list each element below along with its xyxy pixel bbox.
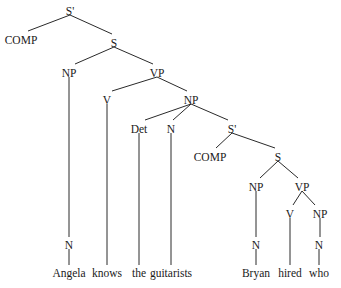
tree-branch: [260, 161, 278, 178]
tree-branch: [75, 47, 114, 64]
tree-branch: [145, 104, 191, 120]
tree-branch: [114, 47, 153, 64]
word-w2: knows: [92, 267, 123, 279]
node-label-np1: NP: [62, 67, 77, 79]
word-w7: who: [309, 267, 329, 279]
node-label-np4: NP: [313, 208, 328, 220]
tree-branch: [302, 191, 315, 205]
syntax-tree-diagram: S'COMPSNPVPVNPDetNS'COMPSNPVPVNPNNN Ange…: [0, 0, 341, 288]
node-label-sbar2: S': [228, 123, 236, 135]
node-label-n3: N: [252, 239, 261, 251]
node-label-vp1: VP: [150, 67, 165, 79]
word-w5: Bryan: [242, 267, 270, 280]
node-label-np3: NP: [249, 181, 264, 193]
node-label-comp1: COMP: [5, 34, 38, 46]
tree-branch: [232, 133, 275, 148]
tree-branch: [191, 104, 228, 120]
node-label-np2: NP: [184, 94, 199, 106]
word-w4: guitarists: [150, 267, 193, 280]
tree-branch: [216, 133, 232, 148]
node-label-n2: N: [167, 123, 176, 135]
node-label-v2: V: [286, 208, 295, 220]
tree-branch: [70, 15, 112, 34]
tree-branch: [173, 104, 191, 120]
word-w3: the: [132, 267, 146, 279]
tree-edges: [28, 15, 320, 265]
tree-nodes: S'COMPSNPVPVNPDetNS'COMPSNPVPVNPNNN: [5, 5, 328, 251]
tree-branch: [112, 77, 157, 91]
tree-terminal-words: AngelaknowstheguitaristsBryanhiredwho: [52, 267, 329, 280]
node-label-sbar1: S': [66, 5, 74, 17]
node-label-s2: S: [275, 151, 281, 163]
word-w6: hired: [278, 267, 302, 279]
node-label-comp2: COMP: [194, 151, 227, 163]
node-label-n1: N: [65, 239, 74, 251]
word-w1: Angela: [52, 267, 85, 280]
node-label-vp2: VP: [295, 181, 310, 193]
tree-branch: [278, 161, 298, 178]
tree-branch: [28, 15, 70, 31]
tree-branch: [157, 77, 187, 91]
node-label-n4: N: [315, 239, 324, 251]
node-label-s1: S: [111, 37, 117, 49]
node-label-v1: V: [103, 94, 112, 106]
tree-branch: [293, 191, 302, 205]
node-label-det1: Det: [131, 123, 148, 135]
